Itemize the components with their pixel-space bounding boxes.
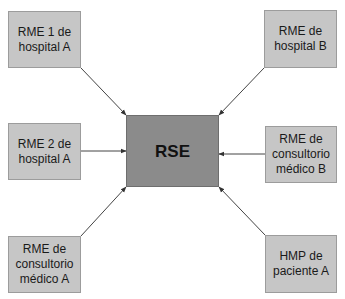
node-rme1-hospital-a: RME 1 de hospital A: [8, 11, 81, 68]
arrow-rme-hospital-b-to-rse: [219, 68, 264, 115]
arrow-hmp-paciente-a-to-rse: [219, 187, 265, 235]
arrow-rme-consultorio-a-to-rse: [81, 187, 126, 236]
node-hmp-paciente-a: HMP de paciente A: [265, 235, 337, 293]
node-rme-consultorio-medico-b: RME de consultorio médico B: [265, 126, 337, 183]
node-rme-consultorio-medico-a: RME de consultorio médico A: [8, 236, 81, 293]
rse-node: RSE: [126, 115, 219, 187]
diagram-canvas: RSE RME 1 de hospital A RME de hospital …: [0, 0, 345, 299]
node-rme2-hospital-a: RME 2 de hospital A: [8, 123, 81, 180]
arrow-rme1-hospital-a-to-rse: [81, 68, 126, 115]
node-rme-hospital-b: RME de hospital B: [264, 10, 337, 68]
